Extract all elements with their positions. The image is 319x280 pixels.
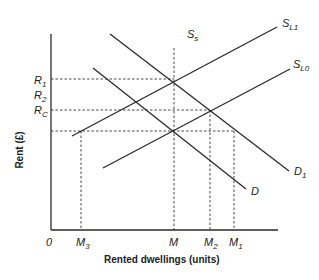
m3-label: M3	[76, 236, 90, 251]
sl1-supply-curve	[72, 27, 277, 136]
m1-label: M1	[229, 236, 243, 251]
d-demand-curve	[93, 68, 246, 189]
r1-label: R1	[34, 74, 46, 89]
ss-label: Ss	[187, 28, 198, 43]
sl0-label: SL0	[293, 58, 310, 73]
rc-label: RC	[34, 104, 48, 119]
sl0-supply-curve	[103, 69, 290, 168]
d-label: D	[251, 185, 259, 197]
origin-label: 0	[46, 236, 53, 248]
d1-label: D1	[294, 165, 306, 180]
r2-label: R2	[34, 89, 47, 104]
sl1-label: SL1	[282, 17, 298, 32]
rental-market-diagram: Ss SL1 SL0 D1 D R1 R2 RC 0 M3 M M2 M1 Re…	[0, 0, 319, 280]
y-axis-title: Rent (£)	[14, 131, 25, 168]
m-label: M	[169, 236, 179, 248]
x-axis-title: Rented dwellings (units)	[104, 254, 220, 265]
m2-label: M2	[204, 236, 218, 251]
